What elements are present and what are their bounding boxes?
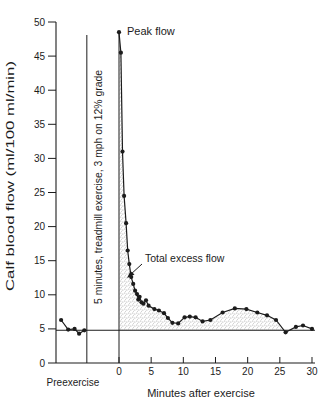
recovery-point <box>144 298 148 302</box>
recovery-line <box>119 32 312 332</box>
recovery-point <box>131 282 135 286</box>
recovery-point <box>162 311 166 315</box>
x-tick-label-20: 20 <box>242 366 254 377</box>
recovery-point <box>244 307 248 311</box>
x-tick-label-5: 5 <box>148 366 154 377</box>
recovery-point <box>127 262 131 266</box>
recovery-point <box>183 315 187 319</box>
x-tick-label-10: 10 <box>178 366 190 377</box>
x-tick-label-30: 30 <box>306 366 318 377</box>
recovery-point <box>265 313 269 317</box>
recovery-point <box>255 310 259 314</box>
recovery-point <box>124 221 128 225</box>
y-axis-title: Calf blood flow (ml/100 ml/min) <box>4 61 16 291</box>
y-tick-label-0: 0 <box>39 358 45 369</box>
y-tick-label-10: 10 <box>34 289 46 300</box>
y-tick-label-40: 40 <box>34 85 46 96</box>
recovery-point <box>294 325 298 329</box>
recovery-point <box>122 194 126 198</box>
recovery-point <box>233 306 237 310</box>
blood-flow-figure: 05101520253035404550051015202530 Calf bl… <box>0 0 333 413</box>
recovery-point <box>141 302 145 306</box>
recovery-point <box>152 307 156 311</box>
y-tick-label-50: 50 <box>34 17 46 28</box>
recovery-point <box>126 248 130 252</box>
recovery-point <box>188 315 192 319</box>
preexercise-point <box>77 332 81 336</box>
recovery-point <box>117 30 121 34</box>
recovery-point <box>176 321 180 325</box>
y-tick-label-15: 15 <box>34 255 46 266</box>
total-excess-flow-annotation: Total excess flow <box>145 252 225 264</box>
recovery-point <box>301 323 305 327</box>
y-tick-label-20: 20 <box>34 221 46 232</box>
x-tick-label-15: 15 <box>210 366 222 377</box>
recovery-point <box>208 318 212 322</box>
x-tick-label-0: 0 <box>116 366 122 377</box>
y-tick-label-5: 5 <box>39 323 45 334</box>
recovery-point <box>221 310 225 314</box>
recovery-point <box>147 304 151 308</box>
y-tick-label-45: 45 <box>34 51 46 62</box>
x-axis-title: Minutes after exercise <box>147 387 255 399</box>
exercise-band-label: 5 minutes, treadmill exercise, 3 mph on … <box>92 70 104 304</box>
recovery-point <box>170 321 174 325</box>
chart-geometry: 05101520253035404550051015202530 <box>34 17 318 378</box>
preexercise-point <box>73 327 77 331</box>
x-tick-label-25: 25 <box>274 366 286 377</box>
recovery-point <box>274 318 278 322</box>
chart: 05101520253035404550051015202530 Calf bl… <box>0 0 333 413</box>
y-tick-label-25: 25 <box>34 187 46 198</box>
recovery-point <box>201 319 205 323</box>
recovery-point <box>284 330 288 334</box>
preexercise-point <box>66 328 70 332</box>
recovery-point <box>138 295 142 299</box>
excess-flow-area <box>119 32 284 330</box>
preexercise-label: Preexercise <box>47 377 100 388</box>
recovery-point <box>157 308 161 312</box>
recovery-point <box>310 327 314 331</box>
preexercise-point <box>59 318 63 322</box>
recovery-point <box>194 315 198 319</box>
preexercise-point <box>82 328 86 332</box>
recovery-point <box>166 316 170 320</box>
peak-flow-annotation: Peak flow <box>127 25 175 37</box>
y-tick-label-30: 30 <box>34 153 46 164</box>
recovery-point <box>119 51 123 55</box>
recovery-point <box>120 150 124 154</box>
preexercise-line <box>61 320 84 334</box>
y-tick-label-35: 35 <box>34 119 46 130</box>
